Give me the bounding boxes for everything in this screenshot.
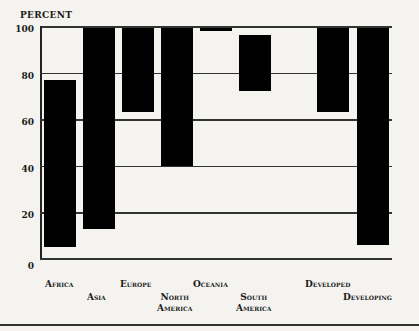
y-tick-label: 100: [4, 24, 34, 34]
y-tick-label: 20: [4, 210, 34, 220]
x-label-europe: Europe: [120, 279, 151, 290]
x-label-asia: Asia: [87, 292, 106, 303]
x-label-oceania: Oceania: [193, 279, 228, 290]
bar-south-america: [239, 35, 271, 91]
bar-developing: [357, 28, 389, 245]
x-label-africa: Africa: [45, 279, 73, 290]
bar-developed: [317, 28, 349, 112]
y-tick-label: 60: [4, 117, 34, 127]
x-axis-line: [40, 258, 392, 260]
plot-area: [40, 26, 392, 259]
y-axis-line: [40, 26, 42, 260]
y-tick-label: 40: [4, 164, 34, 174]
x-label-south-america: South America: [236, 292, 271, 314]
y-tick-label: 80: [4, 71, 34, 81]
x-label-developed: Developed: [305, 279, 350, 290]
x-label-developing: Developing: [343, 292, 392, 303]
x-label-north-america: North America: [157, 292, 192, 314]
y-tick-label: 0: [4, 261, 34, 271]
bar-oceania: [200, 28, 232, 30]
bottom-rule: [0, 324, 419, 326]
bar-north-america: [161, 28, 193, 165]
bar-europe: [122, 28, 154, 112]
bar-africa: [44, 80, 76, 248]
bar-asia: [83, 28, 115, 228]
y-axis-title: PERCENT: [20, 10, 72, 20]
